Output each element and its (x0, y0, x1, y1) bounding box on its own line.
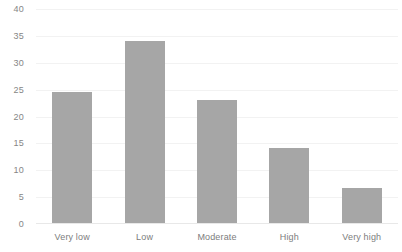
bar[interactable] (342, 188, 382, 223)
x-axis-tick-label: High (253, 232, 325, 243)
x-axis-tick-label: Moderate (181, 232, 253, 243)
y-axis-tick-label: 25 (0, 86, 24, 95)
bar[interactable] (269, 148, 309, 223)
y-axis-tick-label: 5 (0, 193, 24, 202)
y-axis-tick-label: 20 (0, 113, 24, 122)
x-axis-tick-label: Very high (326, 232, 398, 243)
y-axis-tick-label: 0 (0, 220, 24, 229)
bar[interactable] (125, 41, 165, 223)
y-axis-tick-label: 15 (0, 139, 24, 148)
y-axis-tick-label: 10 (0, 166, 24, 175)
x-axis-tick-label: Very low (36, 232, 108, 243)
y-axis-tick-label: 40 (0, 5, 24, 14)
bar[interactable] (197, 100, 237, 223)
x-axis-tick-label: Low (108, 232, 180, 243)
y-axis-tick-label: 30 (0, 59, 24, 68)
bar[interactable] (52, 92, 92, 223)
bar-chart: 40 35 30 25 20 15 10 5 0 Very low Low Mo… (0, 0, 402, 252)
plot-area: 40 35 30 25 20 15 10 5 0 (36, 9, 398, 224)
y-axis-tick-label: 35 (0, 32, 24, 41)
bar-series (36, 9, 398, 224)
x-axis-labels: Very low Low Moderate High Very high (36, 232, 398, 248)
